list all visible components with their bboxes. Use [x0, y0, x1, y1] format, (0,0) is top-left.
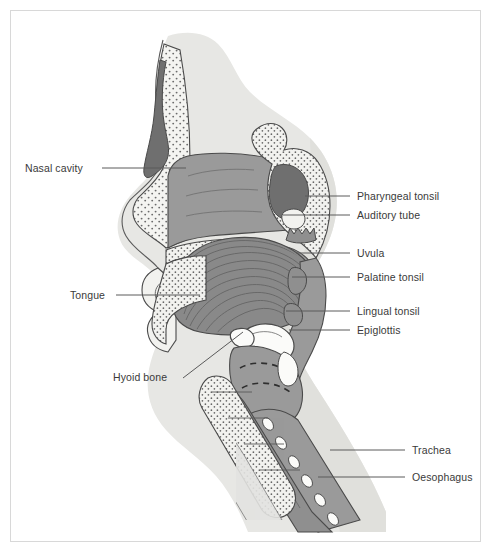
label-auditory-tube: Auditory tube [357, 209, 420, 221]
label-oesophagus: Oesophagus [412, 471, 473, 483]
palatine-tonsil [288, 267, 307, 294]
label-nasal-cavity: Nasal cavity [25, 162, 83, 174]
label-uvula: Uvula [357, 247, 384, 259]
label-pharyngeal-tonsil: Pharyngeal tonsil [357, 190, 439, 202]
label-lingual-tonsil: Lingual tonsil [357, 305, 420, 317]
label-palatine-tonsil: Palatine tonsil [357, 271, 424, 283]
label-epiglottis: Epiglottis [357, 324, 401, 336]
label-hyoid-bone: Hyoid bone [113, 371, 167, 383]
label-trachea: Trachea [412, 444, 451, 456]
label-tongue: Tongue [70, 289, 105, 301]
anatomy-figure: Nasal cavity Tongue Hyoid bone Pharyngea… [0, 0, 493, 554]
